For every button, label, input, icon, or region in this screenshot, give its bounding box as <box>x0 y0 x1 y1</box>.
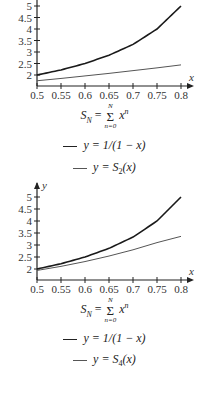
y-tick-label: 4.5 <box>18 12 32 24</box>
x-tick-label: 0.55 <box>51 89 71 101</box>
y-tick-label: 5 <box>27 191 33 203</box>
y-tick-label: 3 <box>27 46 33 58</box>
legend-item-reciprocal-2: y = 1/(1 − x) <box>0 331 209 346</box>
x-tick-label: 0.75 <box>147 89 167 101</box>
x-tick-label: 0.5 <box>30 283 44 295</box>
y-tick-label: 2.5 <box>18 251 32 263</box>
y-tick-label: 3.5 <box>18 35 32 47</box>
sum-formula-2: SN = NΣn=0 xn <box>0 297 209 324</box>
x-tick-label: 0.7 <box>126 89 140 101</box>
legend-item-partial-sum-2: y = S4(x) <box>0 352 209 368</box>
x-tick-label: 0.8 <box>174 283 188 295</box>
chart-bottom: yx0.50.550.60.650.70.750.822.533.544.55 <box>18 179 194 295</box>
legend-item-partial-sum-1: y = S2(x) <box>0 160 209 176</box>
legend-thick-line-icon <box>63 146 77 147</box>
x-tick-label: 0.6 <box>78 89 92 101</box>
x-tick-label: 0.65 <box>99 89 119 101</box>
y-tick-label: 3 <box>27 239 33 251</box>
y-tick-label: 4.5 <box>18 203 32 215</box>
y-axis-label: y <box>41 179 47 191</box>
legend-thick-line-icon <box>63 339 77 340</box>
x-tick-label: 0.6 <box>78 283 92 295</box>
reciprocal-curve <box>37 6 181 75</box>
x-tick-label: 0.8 <box>174 89 188 101</box>
x-axis-arrow-icon <box>187 83 194 89</box>
x-axis-arrow-icon <box>187 277 194 283</box>
sum-formula-1: SN = NΣn=0 xn <box>0 103 209 130</box>
x-tick-label: 0.65 <box>99 283 119 295</box>
partial-sum-curve <box>37 65 181 81</box>
x-tick-label: 0.55 <box>51 283 71 295</box>
partial-sum-curve <box>37 236 181 270</box>
x-tick-label: 0.75 <box>147 283 167 295</box>
y-tick-label: 4 <box>27 215 33 227</box>
x-tick-label: 0.7 <box>126 283 140 295</box>
y-tick-label: 3.5 <box>18 227 32 239</box>
y-tick-label: 5 <box>27 0 33 12</box>
chart-top: x0.50.550.60.650.70.750.822.533.544.55 <box>18 0 194 101</box>
legend-item-reciprocal-1: y = 1/(1 − x) <box>0 138 209 153</box>
y-tick-label: 2 <box>27 69 33 81</box>
y-tick-label: 2 <box>27 263 33 275</box>
x-axis-label: x <box>188 71 194 83</box>
legend-thin-line-icon <box>73 168 87 169</box>
reciprocal-curve <box>37 197 181 269</box>
x-tick-label: 0.5 <box>30 89 44 101</box>
legend-thin-line-icon <box>73 360 87 361</box>
x-axis-label: x <box>188 265 194 277</box>
y-axis-arrow-icon <box>34 182 40 189</box>
y-tick-label: 4 <box>27 23 33 35</box>
y-tick-label: 2.5 <box>18 58 32 70</box>
